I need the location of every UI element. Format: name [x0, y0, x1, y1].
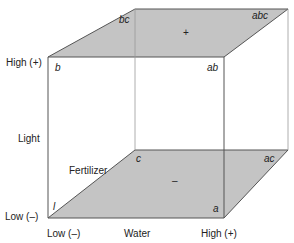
vertex-b: b	[55, 62, 61, 73]
vertex-ab: ab	[207, 62, 219, 73]
vertex-abc: abc	[252, 10, 268, 21]
fertilizer-axis-label: Fertilizer	[69, 165, 108, 176]
water-axis-label: Water	[124, 228, 151, 239]
vertex-a: a	[213, 203, 219, 214]
vertex-c: c	[136, 153, 141, 164]
water-low-label: Low (–)	[47, 228, 80, 239]
light-low-label: Low (–)	[5, 211, 38, 222]
light-high-label: High (+)	[6, 57, 42, 68]
water-high-label: High (+)	[201, 228, 237, 239]
vertex-ac: ac	[264, 153, 275, 164]
bottom-face	[48, 150, 288, 218]
light-axis-label: Light	[18, 133, 40, 144]
top-face-sign: +	[183, 27, 189, 38]
vertex-l: l	[53, 201, 56, 212]
factorial-cube-diagram: bc abc b ab c ac l a + – High (+) Light …	[0, 0, 294, 243]
vertex-bc: bc	[119, 14, 130, 25]
bottom-face-sign: –	[172, 175, 178, 186]
